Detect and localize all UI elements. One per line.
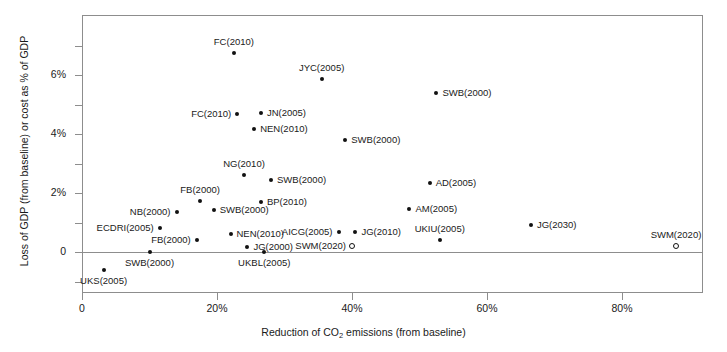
y-tick-minor (75, 223, 82, 224)
data-point-label: AICG(2005) (282, 227, 333, 237)
data-point[interactable] (337, 230, 341, 234)
data-point[interactable] (438, 238, 442, 242)
zero-reference-line (82, 252, 703, 253)
data-point-label: SWB(2000) (351, 135, 400, 145)
data-point-label: JG(2030) (537, 220, 577, 230)
y-tick-major (75, 252, 82, 253)
data-point[interactable] (195, 238, 199, 242)
data-point-label: JN(2005) (267, 108, 306, 118)
y-tick-major (75, 193, 82, 194)
data-point[interactable] (102, 268, 106, 272)
scatter-chart: 02%4%6% 020%40%60%80% FC(2010)JYC(2005)S… (0, 0, 727, 352)
x-tick-major (352, 293, 353, 300)
data-point-label: FB(2000) (151, 235, 191, 245)
data-point-label: NG(2010) (223, 159, 265, 169)
data-point-label: BP(2010) (267, 197, 307, 207)
y-tick-major (75, 134, 82, 135)
y-tick-minor (75, 105, 82, 106)
data-point[interactable] (175, 210, 179, 214)
data-point-label: FC(2010) (214, 37, 254, 47)
data-point[interactable] (232, 51, 236, 55)
data-point-label: NEN(2010) (260, 124, 308, 134)
x-tick-label: 0 (60, 302, 104, 314)
data-point-label: UKIU(2005) (415, 224, 465, 234)
data-point-label: AD(2005) (436, 178, 477, 188)
data-point-label: SWB(2000) (220, 205, 269, 215)
y-tick-label: 2% (28, 187, 66, 197)
x-axis-title-text: Reduction of CO2 emissions (from baselin… (261, 326, 465, 338)
data-point[interactable] (252, 127, 256, 131)
data-point[interactable] (212, 208, 216, 212)
data-point-label: UKBL(2005) (238, 258, 290, 268)
data-point[interactable] (148, 250, 152, 254)
data-point-label: FB(2000) (180, 185, 220, 195)
x-tick-label: 60% (465, 302, 509, 314)
data-point[interactable] (269, 178, 273, 182)
data-point-label: SWB(2000) (125, 258, 174, 268)
data-point-label: ECDRI(2005) (97, 223, 154, 233)
data-point[interactable] (428, 181, 432, 185)
x-axis-title: Reduction of CO2 emissions (from baselin… (0, 326, 727, 338)
x-tick-major (82, 293, 83, 300)
y-tick-label: 4% (28, 128, 66, 138)
y-axis-title: Loss of GDP (from baseline) or cost as %… (18, 6, 30, 296)
x-tick-major (217, 293, 218, 300)
x-tick-major (487, 293, 488, 300)
data-point-label: NB(2000) (130, 207, 171, 217)
data-point[interactable] (242, 173, 246, 177)
data-point-label: JYC(2005) (299, 63, 344, 73)
x-tick-major (622, 293, 623, 300)
data-point-label: JG(2000) (253, 242, 293, 252)
data-point-label: NEN(2010) (237, 229, 285, 239)
x-tick-label: 80% (600, 302, 644, 314)
data-point-label: SWB(2000) (277, 175, 326, 185)
y-tick-major (75, 75, 82, 76)
data-point[interactable] (229, 232, 233, 236)
data-point-label: SWM(2020) (295, 241, 346, 251)
data-point[interactable] (673, 243, 679, 249)
y-tick-minor (75, 46, 82, 47)
y-tick-label: 0 (28, 246, 66, 256)
x-tick-label: 20% (195, 302, 239, 314)
data-point-label: AM(2005) (415, 204, 457, 214)
y-tick-label: 6% (28, 69, 66, 79)
data-point[interactable] (349, 243, 355, 249)
data-point-label: SWM(2020) (651, 230, 702, 240)
y-tick-minor (75, 164, 82, 165)
data-point-label: SWB(2000) (442, 88, 491, 98)
data-point-label: UKS(2005) (80, 276, 127, 286)
data-point[interactable] (158, 226, 162, 230)
data-point-label: JG(2010) (361, 227, 401, 237)
x-tick-label: 40% (330, 302, 374, 314)
data-point-label: FC(2010) (191, 109, 231, 119)
